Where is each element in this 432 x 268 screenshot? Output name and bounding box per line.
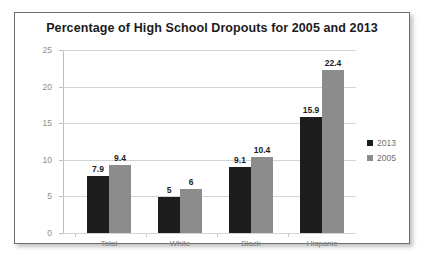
x-tick-white <box>146 233 147 237</box>
bar-value-black-2005: 10.4 <box>254 145 271 155</box>
legend-label-2013: 2013 <box>377 138 396 148</box>
plot-area: 0 5 10 15 20 25 7.9 9.4 <box>63 51 356 234</box>
category-label-hispanic: Hispanic <box>307 239 338 248</box>
bar-white-2005[interactable]: 6 <box>180 189 202 233</box>
gridline-0 <box>63 233 356 234</box>
bar-value-hispanic-2013: 15.9 <box>303 105 320 115</box>
bar-black-2013[interactable]: 9.1 <box>229 167 251 233</box>
chart-legend: 2013 2005 <box>367 135 396 165</box>
legend-swatch-icon-2005 <box>367 155 373 161</box>
y-tick-0: 0 <box>59 233 63 234</box>
y-tick-label-15: 15 <box>43 118 52 128</box>
chart-card: Percentage of High School Dropouts for 2… <box>14 12 410 244</box>
legend-label-2005: 2005 <box>377 153 396 163</box>
y-tick-25: 25 <box>59 50 63 51</box>
bar-value-total-2013: 7.9 <box>92 164 104 174</box>
y-tick-20: 20 <box>59 87 63 88</box>
y-tick-label-25: 25 <box>43 45 52 55</box>
bar-black-2005[interactable]: 10.4 <box>251 157 273 233</box>
gridline-25 <box>63 50 356 51</box>
bar-hispanic-2005[interactable]: 22.4 <box>322 70 344 233</box>
bar-total-2013[interactable]: 7.9 <box>87 176 109 234</box>
gridline-20 <box>63 87 356 88</box>
x-tick-black <box>217 233 218 237</box>
chart-title: Percentage of High School Dropouts for 2… <box>15 21 409 35</box>
legend-swatch-icon-2013 <box>367 140 373 146</box>
legend-item-2013[interactable]: 2013 <box>367 135 396 150</box>
bar-value-hispanic-2005: 22.4 <box>325 58 342 68</box>
x-tick-total <box>75 233 76 237</box>
category-label-total: Total <box>101 239 118 248</box>
category-label-black: Black <box>241 239 261 248</box>
y-tick-label-0: 0 <box>47 228 52 238</box>
legend-item-2005[interactable]: 2005 <box>367 150 396 165</box>
bar-white-2013[interactable]: 5 <box>158 197 180 233</box>
y-tick-15: 15 <box>59 123 63 124</box>
y-tick-label-5: 5 <box>47 191 52 201</box>
bar-value-black-2013: 9.1 <box>234 155 246 165</box>
bar-value-white-2013: 5 <box>167 185 172 195</box>
bar-value-white-2005: 6 <box>189 177 194 187</box>
x-tick-hispanic <box>288 233 289 237</box>
bar-value-total-2005: 9.4 <box>114 153 126 163</box>
bar-hispanic-2013[interactable]: 15.9 <box>300 117 322 233</box>
y-axis-line <box>63 51 64 234</box>
bar-total-2005[interactable]: 9.4 <box>109 165 131 233</box>
y-tick-label-10: 10 <box>43 155 52 165</box>
y-tick-5: 5 <box>59 196 63 197</box>
category-label-white: White <box>170 239 190 248</box>
y-tick-label-20: 20 <box>43 82 52 92</box>
y-tick-10: 10 <box>59 160 63 161</box>
